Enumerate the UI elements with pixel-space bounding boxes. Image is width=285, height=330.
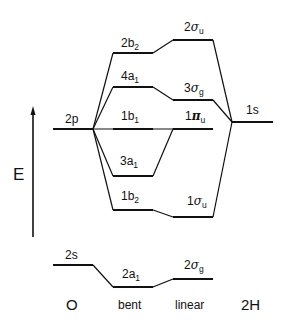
conn-2s-2a1 xyxy=(93,265,113,287)
energy-axis-arrowhead xyxy=(31,106,36,115)
o-2s-label: 2s xyxy=(65,248,78,262)
label-2sg: 2σg xyxy=(184,258,204,274)
conn-1b2-1su xyxy=(153,210,173,217)
label-1b1: 1b1 xyxy=(121,109,139,125)
conn-1s-2su xyxy=(213,40,232,122)
label-2su: 2σu xyxy=(184,20,204,36)
conn-2b2-2su xyxy=(153,40,173,53)
column-label-2h: 2H xyxy=(241,296,260,313)
column-label-bent: bent xyxy=(118,298,142,312)
label-2b2: 2b2 xyxy=(121,36,139,52)
column-label-linear: linear xyxy=(175,298,204,312)
conn-4a1-3sg xyxy=(153,87,173,100)
label-4a1: 4a1 xyxy=(121,69,139,85)
label-3a1: 3a1 xyxy=(120,154,138,170)
conn-3a1-1pu xyxy=(153,129,173,176)
energy-axis-label: E xyxy=(13,165,24,184)
label-1pu: 1πu xyxy=(185,109,205,125)
conn-2p-2b2 xyxy=(93,53,113,129)
label-3sg: 3σg xyxy=(184,81,204,97)
column-label-o: O xyxy=(66,296,78,313)
label-1su: 1σu xyxy=(187,194,207,210)
walsh-diagram: E 2p 2s 1s 2b2 2σu 4a1 3σg 1b1 1πu 3a1 1… xyxy=(0,0,285,330)
conn-2a1-2sg xyxy=(153,279,173,287)
h-1s-label: 1s xyxy=(246,103,259,117)
conn-1s-1su xyxy=(213,122,232,217)
label-1b2: 1b2 xyxy=(121,189,139,205)
label-2a1: 2a1 xyxy=(122,267,140,283)
o-2p-label: 2p xyxy=(65,112,79,126)
